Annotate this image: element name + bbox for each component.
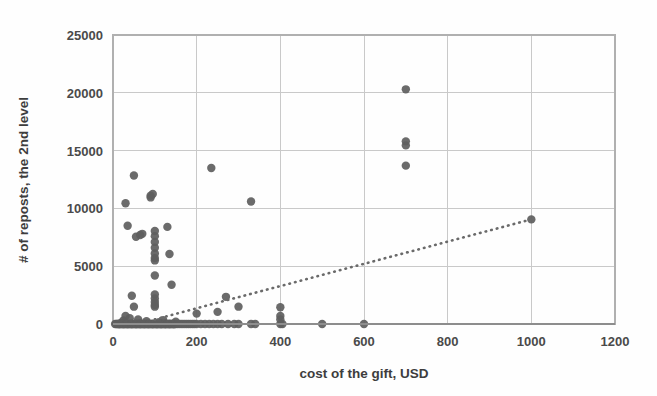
data-point [138, 230, 146, 238]
data-points [111, 85, 536, 328]
y-axis-title: # of reposts, the 2nd level [16, 97, 31, 263]
data-point [192, 309, 200, 317]
data-point [151, 256, 159, 264]
data-point [234, 302, 242, 310]
data-point [167, 280, 175, 288]
data-point [130, 171, 138, 179]
data-point [213, 308, 221, 316]
data-point [165, 250, 173, 258]
y-tick-label: 25000 [67, 28, 103, 43]
x-axis-title: cost of the gift, USD [300, 366, 429, 381]
data-point [402, 161, 410, 169]
y-tick-label: 10000 [67, 201, 103, 216]
y-tick-label: 15000 [67, 144, 103, 159]
data-point [123, 222, 131, 230]
data-point [151, 302, 159, 310]
x-tick-label: 1200 [601, 334, 630, 349]
grid-lines [113, 35, 615, 324]
chart-canvas: 0500010000150002000025000 02004006008001… [0, 0, 657, 396]
x-tick-label: 200 [186, 334, 208, 349]
scatter-chart: 0500010000150002000025000 02004006008001… [0, 0, 657, 396]
data-point [247, 197, 255, 205]
data-point [163, 223, 171, 231]
y-tick-labels: 0500010000150002000025000 [67, 28, 103, 332]
data-point [130, 302, 138, 310]
x-tick-label: 0 [109, 334, 116, 349]
x-tick-label: 1000 [517, 334, 546, 349]
y-tick-label: 5000 [74, 259, 103, 274]
data-point [121, 199, 129, 207]
data-point [128, 291, 136, 299]
data-point [207, 164, 215, 172]
y-tick-label: 0 [96, 317, 103, 332]
x-tick-label: 600 [353, 334, 375, 349]
data-point [402, 141, 410, 149]
x-tick-label: 800 [437, 334, 459, 349]
data-point [151, 271, 159, 279]
data-point [149, 190, 157, 198]
x-tick-labels: 020040060080010001200 [109, 334, 629, 349]
data-point [402, 85, 410, 93]
trendline [155, 219, 532, 319]
y-tick-label: 20000 [67, 86, 103, 101]
data-point [276, 303, 284, 311]
x-tick-label: 400 [269, 334, 291, 349]
